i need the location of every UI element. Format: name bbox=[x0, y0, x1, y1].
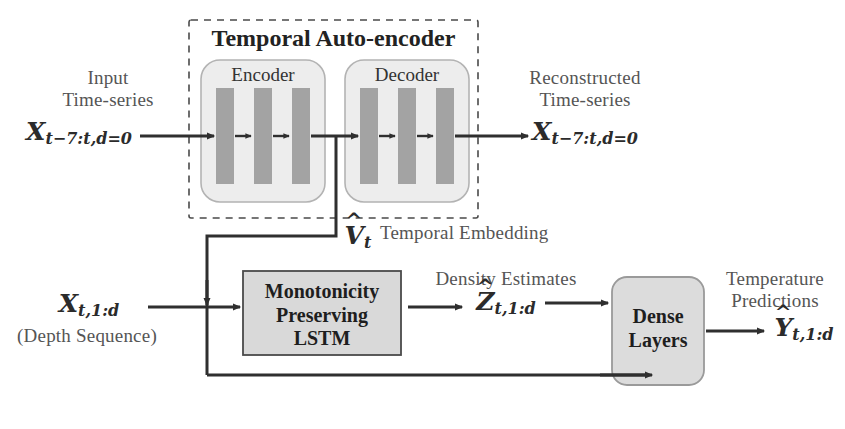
reconstructed-caption-line2: Time-series bbox=[495, 89, 675, 110]
lstm-label-line1: Monotonicity bbox=[243, 280, 401, 304]
decoder-layer-bar bbox=[436, 88, 454, 184]
depth-sequence-symbol: Xt,1:d bbox=[28, 290, 150, 320]
dense-layers-label: Dense Layers bbox=[612, 305, 704, 352]
density-estimates-symbol: ^Zt,1:d bbox=[464, 288, 548, 318]
input-timeseries-caption-line1: Input bbox=[38, 67, 178, 88]
temporal-autoencoder-title: Temporal Auto-encoder bbox=[189, 25, 478, 52]
input-symbol-subscript: t−7:t,d=0 bbox=[45, 129, 132, 148]
diagram-canvas: Temporal Auto-encoder Encoder Decoder In… bbox=[0, 0, 845, 429]
depth-sequence-caption: (Depth Sequence) bbox=[12, 325, 162, 346]
reconstructed-symbol-base: X bbox=[532, 117, 551, 146]
temporal-embedding-caption: Temporal Embedding bbox=[380, 222, 570, 243]
input-timeseries-caption-line2: Time-series bbox=[38, 89, 178, 110]
embedding-symbol-subscript: t bbox=[364, 233, 371, 252]
dense-label-line2: Layers bbox=[612, 329, 704, 353]
lstm-label-line3: LSTM bbox=[243, 327, 401, 351]
temperature-prediction-symbol: ^Yt,1:d bbox=[762, 314, 845, 344]
dense-label-line1: Dense bbox=[612, 305, 704, 329]
lstm-block-label: Monotonicity Preserving LSTM bbox=[243, 280, 401, 351]
temporal-embedding-symbol: ^Vt bbox=[330, 222, 386, 252]
depth-symbol-base: X bbox=[59, 289, 78, 318]
encoder-layer-bar bbox=[216, 88, 234, 184]
lstm-label-line2: Preserving bbox=[243, 304, 401, 328]
temperature-prediction-caption-line1: Temperature bbox=[710, 268, 840, 289]
reconstructed-symbol-subscript: t−7:t,d=0 bbox=[551, 129, 638, 148]
prediction-symbol-subscript: t,1:d bbox=[792, 325, 833, 344]
input-symbol-base: X bbox=[26, 117, 45, 146]
reconstructed-symbol: Xt−7:t,d=0 bbox=[500, 118, 670, 148]
decoder-layer-bar bbox=[360, 88, 378, 184]
decoder-label: Decoder bbox=[345, 64, 469, 86]
decoder-layer-bar bbox=[398, 88, 416, 184]
prediction-hat-accent: ^ bbox=[775, 301, 792, 323]
density-symbol-subscript: t,1:d bbox=[495, 299, 536, 318]
encoder-layer-bar bbox=[254, 88, 272, 184]
encoder-label: Encoder bbox=[201, 64, 325, 86]
reconstructed-caption-line1: Reconstructed bbox=[495, 67, 675, 88]
depth-symbol-subscript: t,1:d bbox=[78, 301, 119, 320]
density-hat-accent: ^ bbox=[477, 275, 494, 297]
input-timeseries-symbol: Xt−7:t,d=0 bbox=[14, 118, 144, 148]
encoder-layer-bar bbox=[292, 88, 310, 184]
embedding-hat-accent: ^ bbox=[346, 209, 363, 231]
